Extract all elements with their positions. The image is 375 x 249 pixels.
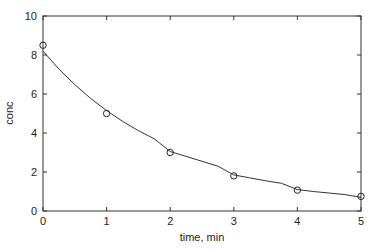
- plot-area: [43, 16, 361, 211]
- x-tick-label: 4: [294, 215, 300, 227]
- y-tick-label: 6: [31, 88, 37, 100]
- plot-frame: [43, 16, 361, 211]
- x-tick-label: 5: [358, 215, 364, 227]
- x-tick-label: 0: [40, 215, 46, 227]
- circle-marker: [103, 110, 109, 116]
- fit-curve: [43, 51, 361, 197]
- data-markers: [40, 42, 364, 200]
- y-tick-label: 0: [31, 205, 37, 217]
- circle-marker: [231, 173, 237, 179]
- x-axis-label: time, min: [180, 231, 225, 243]
- x-tick-label: 1: [104, 215, 110, 227]
- y-tick-label: 10: [25, 10, 37, 22]
- chart: 012345 0246810 time, min conc: [0, 0, 375, 249]
- y-axis-label: conc: [3, 101, 15, 125]
- fit-line: [43, 51, 361, 197]
- x-tick-label: 2: [167, 215, 173, 227]
- y-tick-label: 4: [31, 127, 37, 139]
- y-tick-label: 2: [31, 166, 37, 178]
- y-axis-ticks: 0246810: [25, 10, 361, 217]
- x-tick-label: 3: [231, 215, 237, 227]
- y-tick-label: 8: [31, 49, 37, 61]
- x-axis-ticks: 012345: [40, 16, 364, 227]
